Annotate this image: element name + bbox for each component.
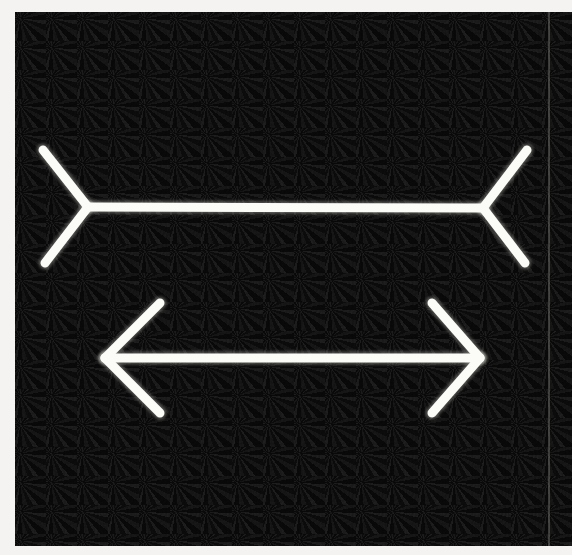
- lower-right-arrowhead: [432, 358, 480, 413]
- upper-left-fin: [43, 150, 88, 207]
- lower-left-arrowhead: [105, 358, 160, 413]
- muller-lyer-figures: [0, 0, 572, 555]
- lower-right-fin: [483, 208, 525, 263]
- upper-right-fin: [483, 150, 527, 208]
- illusion-image: Müller-Lyer illusion figure Two horizont…: [0, 0, 572, 555]
- fins-out-figure: [43, 150, 527, 263]
- upper-shaft: [88, 207, 483, 208]
- upper-right-arrowhead: [432, 303, 480, 358]
- lower-left-fin: [45, 207, 88, 263]
- fins-in-figure: [105, 303, 480, 413]
- upper-left-arrowhead: [105, 303, 160, 358]
